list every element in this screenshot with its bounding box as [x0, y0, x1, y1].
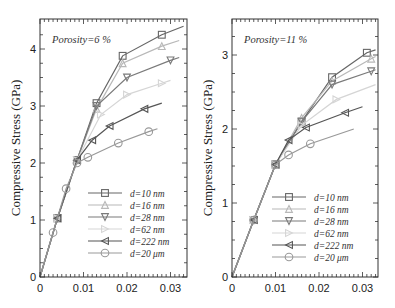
- y-axis-label: Compressive Stress (GPa): [200, 80, 215, 217]
- legend: d=10 nmd=16 nmd=28 nmd=62 nmd=222 nmd=20…: [272, 193, 354, 263]
- x-tick-label: 0: [37, 282, 43, 294]
- legend-label: d=222 nm: [130, 237, 170, 247]
- y-tick-label: 1: [30, 214, 36, 226]
- x-tick-label: 0.03: [160, 282, 181, 294]
- chart-canvas: 00.010.020.0301234Compressive Stress (GP…: [0, 0, 395, 308]
- legend-label: d=222 nm: [314, 241, 354, 251]
- legend: d=10 nmd=16 nmd=28 nmd=62 nmd=222 nmd=20…: [88, 189, 170, 259]
- y-tick-label: 0: [30, 271, 36, 283]
- legend-label: d=28 nm: [314, 217, 349, 227]
- legend-label: d=16 nm: [130, 201, 165, 211]
- x-tick-label: 0.01: [73, 282, 94, 294]
- porosity-annotation: Porosity=6 %: [51, 34, 111, 45]
- series-d-16-nm: [232, 55, 376, 277]
- series-line: [232, 70, 376, 277]
- y-tick-label: 2: [222, 123, 228, 135]
- legend-label: d=62 nm: [314, 229, 349, 239]
- plot-panel-2: 00.010.020.030123Compressive Stress (GPa…: [200, 19, 378, 294]
- legend-label: d=20 μm: [314, 253, 349, 263]
- series-line: [232, 85, 376, 277]
- porosity-annotation: Porosity=11 %: [243, 34, 308, 45]
- legend-label: d=10 nm: [314, 193, 349, 203]
- series-d-10-nm: [232, 49, 376, 277]
- y-tick-label: 3: [30, 100, 36, 112]
- y-tick-label: 0: [222, 271, 228, 283]
- y-tick-label: 3: [222, 49, 228, 61]
- x-tick-label: 0.01: [265, 282, 286, 294]
- x-tick-label: 0: [229, 282, 235, 294]
- x-tick-label: 0.03: [352, 282, 373, 294]
- x-tick-label: 0.02: [308, 282, 329, 294]
- legend-label: d=62 nm: [130, 225, 165, 235]
- y-tick-label: 4: [30, 43, 36, 55]
- series-line: [232, 50, 376, 277]
- y-tick-label: 1: [222, 197, 228, 209]
- plot-frame: [232, 19, 378, 277]
- legend-label: d=16 nm: [314, 205, 349, 215]
- legend-label: d=10 nm: [130, 189, 165, 199]
- series-line: [40, 80, 171, 277]
- series-d-62-nm: [40, 80, 171, 277]
- y-tick-label: 2: [30, 157, 36, 169]
- series-line: [232, 56, 376, 277]
- y-axis-label: Compressive Stress (GPa): [8, 80, 23, 217]
- series-d-62-nm: [232, 85, 376, 277]
- plot-panel-1: 00.010.020.0301234Compressive Stress (GP…: [8, 19, 187, 294]
- series-d-28-nm: [232, 68, 376, 277]
- x-tick-label: 0.02: [116, 282, 137, 294]
- legend-label: d=20 μm: [130, 249, 165, 259]
- legend-label: d=28 nm: [130, 213, 165, 223]
